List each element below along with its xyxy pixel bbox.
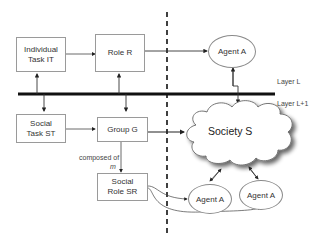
- composed-of-label: composed of: [79, 154, 119, 161]
- agent-top-ellipse: Agent A: [208, 35, 256, 68]
- layer-upper-label: Layer L: [277, 78, 300, 85]
- society-label: Society S: [208, 125, 252, 137]
- social-role-box: Social Role SR: [97, 173, 148, 201]
- individual-task-box: Individual Task IT: [16, 37, 66, 72]
- role-box: Role R: [95, 34, 145, 72]
- layered-agent-diagram: Individual Task IT Role R Social Task ST…: [0, 0, 320, 245]
- agent-bottom-right-ellipse: Agent A: [239, 180, 283, 210]
- social-task-box: Social Task ST: [16, 114, 66, 143]
- group-box: Group G: [97, 117, 148, 142]
- multiplicity-label: m: [110, 163, 116, 170]
- agent-bottom-left-ellipse: Agent A: [188, 184, 232, 214]
- layer-lower-label: Layer L+1: [277, 100, 308, 107]
